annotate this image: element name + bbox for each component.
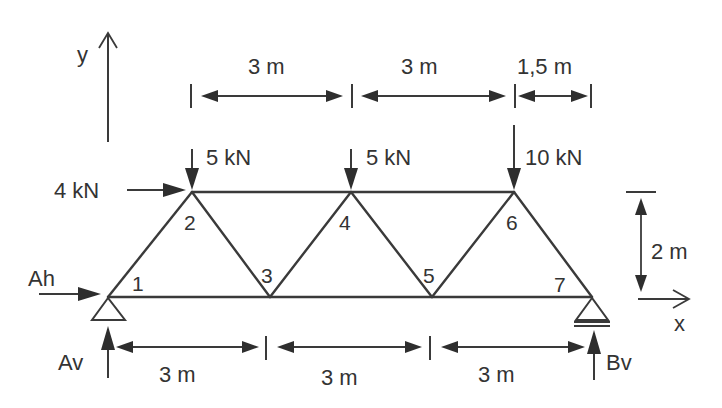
truss-diagram: y x 1 2 3 4 5 6 7 4 kN 5 kN: [0, 0, 722, 408]
load-label-5kn-node4: 5 kN: [366, 145, 411, 170]
dim-label-bottom-2: 3 m: [321, 365, 358, 390]
node-label-6: 6: [506, 211, 518, 234]
height-dimension: 2 m: [626, 192, 688, 292]
reaction-label-bv: Bv: [606, 350, 632, 375]
arrow-down-icon: [344, 168, 358, 190]
truss-members: [108, 192, 592, 297]
arrow-right-icon: [163, 183, 186, 197]
dim-top-1: 3 m: [201, 54, 343, 102]
dim-top-2: 3 m: [361, 54, 506, 102]
bottom-dimensions: 3 m 3 m 3 m: [116, 336, 585, 390]
reaction-av: Av: [58, 326, 115, 378]
arrow-down-icon: [507, 168, 521, 190]
member-5-6: [432, 192, 514, 297]
dim-label-height: 2 m: [651, 239, 688, 264]
member-2-3: [192, 192, 270, 297]
y-axis-label: y: [77, 42, 88, 67]
reaction-label-av: Av: [58, 350, 83, 375]
member-6-7: [514, 192, 592, 297]
node-label-5: 5: [423, 264, 435, 287]
top-dimensions: 3 m 3 m 1,5 m: [191, 54, 591, 108]
support-b-roller: [574, 298, 610, 326]
member-1-2: [108, 192, 192, 297]
load-label-10kn: 10 kN: [525, 145, 582, 170]
node-label-2: 2: [184, 211, 196, 234]
dim-bottom-1: 3 m: [116, 341, 259, 387]
node-label-1: 1: [132, 272, 144, 295]
node-label-4: 4: [339, 211, 351, 234]
member-3-4: [270, 192, 351, 297]
arrow-down-icon: [185, 168, 199, 190]
node-label-7: 7: [554, 273, 566, 296]
load-5kn-node4: 5 kN: [344, 145, 411, 190]
node-label-3: 3: [261, 264, 273, 287]
roller-support-icon: [576, 298, 608, 320]
reaction-bv: Bv: [587, 330, 632, 380]
reaction-ah: Ah: [28, 266, 101, 301]
x-axis-label: x: [674, 311, 685, 336]
arrow-right-icon: [78, 287, 101, 301]
y-axis: y: [77, 33, 117, 142]
load-10kn-node6: 10 kN: [507, 125, 582, 190]
dim-label-bottom-1: 3 m: [159, 362, 196, 387]
support-a-pin: [92, 298, 125, 320]
member-4-5: [351, 192, 432, 297]
dim-label-top-2: 3 m: [401, 54, 438, 79]
load-label-4kn: 4 kN: [54, 178, 99, 203]
pin-support-icon: [92, 298, 125, 320]
dim-bottom-2: 3 m: [277, 341, 422, 390]
arrow-up-icon: [101, 326, 115, 350]
x-axis: x: [638, 290, 689, 336]
node-labels: 1 2 3 4 5 6 7: [132, 211, 566, 296]
arrow-up-icon: [587, 330, 601, 354]
load-5kn-node2: 5 kN: [185, 145, 251, 190]
load-label-5kn-node2: 5 kN: [206, 145, 251, 170]
dim-label-bottom-3: 3 m: [478, 362, 515, 387]
dim-label-top-3: 1,5 m: [517, 54, 572, 79]
dim-label-top-1: 3 m: [248, 54, 285, 79]
dim-bottom-3: 3 m: [441, 341, 585, 387]
load-4kn-horizontal: 4 kN: [54, 178, 186, 203]
reaction-label-ah: Ah: [28, 266, 55, 291]
dim-top-3: 1,5 m: [517, 54, 588, 102]
